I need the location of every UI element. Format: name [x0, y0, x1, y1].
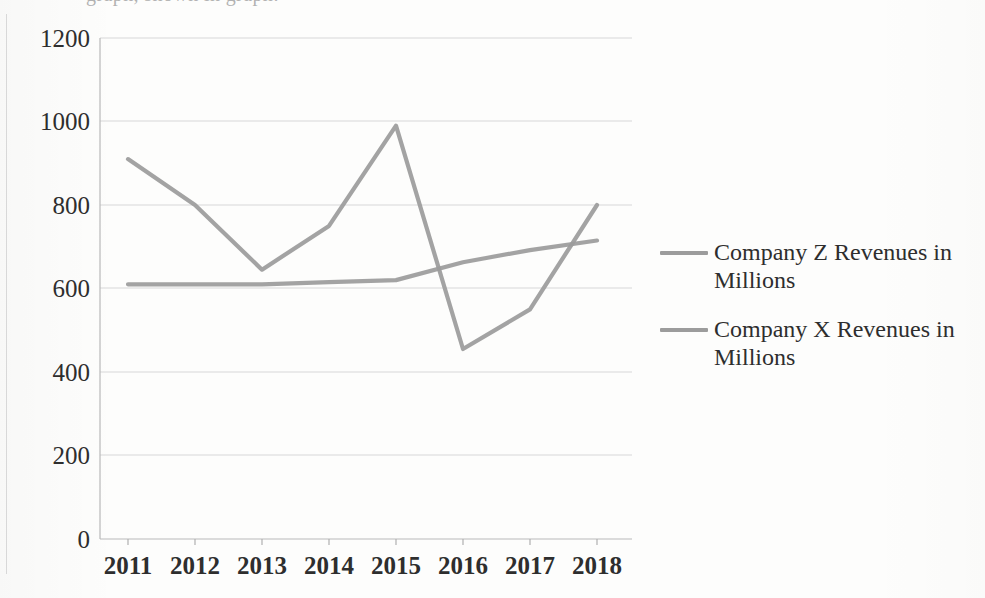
x-axis-label-2015: 2015	[363, 552, 429, 580]
x-axis-label-2016: 2016	[430, 552, 496, 580]
chart-legend: Company Z Revenues in Millions Company X…	[660, 238, 970, 391]
x-axis-label-2018: 2018	[564, 552, 630, 580]
chart-container: graph, shown in graph: 1200 1000 800 600…	[0, 0, 985, 598]
x-axis-label-2014: 2014	[296, 552, 362, 580]
legend-item-company-z: Company Z Revenues in Millions	[660, 238, 970, 295]
x-axis-label-2012: 2012	[162, 552, 228, 580]
series-line-company-z	[128, 126, 597, 349]
legend-line-swatch-icon	[660, 251, 708, 255]
series-line-company-x	[128, 241, 597, 285]
x-axis-label-2017: 2017	[497, 552, 563, 580]
legend-item-company-x: Company X Revenues in Millions	[660, 315, 970, 372]
clipped-caption-above: graph, shown in graph:	[0, 0, 985, 14]
x-axis-label-2011: 2011	[95, 552, 161, 580]
x-axis-label-2013: 2013	[229, 552, 295, 580]
legend-label-company-x: Company X Revenues in Millions	[714, 315, 964, 372]
legend-line-swatch-icon	[660, 328, 708, 332]
legend-label-company-z: Company Z Revenues in Millions	[714, 238, 964, 295]
clipped-caption-text: graph, shown in graph:	[86, 0, 279, 6]
